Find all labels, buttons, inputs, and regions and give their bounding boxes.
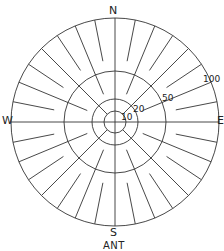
- north-label: N: [109, 5, 117, 16]
- spoke-258.75: [13, 134, 54, 142]
- rose-diagram: [0, 0, 224, 251]
- spoke-101.25: [176, 134, 217, 142]
- ring-label-100: 100: [203, 75, 220, 84]
- spoke-225: [41, 130, 107, 196]
- diagram-caption: ANT: [103, 241, 125, 251]
- spoke-22.5: [126, 26, 154, 94]
- spoke-11.25: [127, 20, 135, 61]
- spoke-123.75: [167, 156, 202, 179]
- spoke-112.5: [143, 133, 211, 161]
- spoke-56.25: [167, 64, 202, 87]
- spoke-281.25: [13, 102, 54, 110]
- spoke-67.5: [143, 82, 211, 110]
- spoke-202.5: [75, 150, 103, 218]
- spoke-326.25: [57, 36, 80, 71]
- radial-spokes: [11, 18, 219, 226]
- spoke-146.25: [149, 174, 172, 209]
- spoke-337.5: [75, 26, 103, 94]
- spoke-157.5: [126, 150, 154, 218]
- spoke-78.75: [176, 102, 217, 110]
- spoke-33.75: [149, 36, 172, 71]
- east-label: E: [217, 115, 224, 126]
- spoke-292.5: [19, 82, 87, 110]
- spoke-236.25: [29, 156, 64, 179]
- spoke-168.75: [127, 183, 135, 224]
- ring-label-50: 50: [162, 94, 173, 103]
- spoke-348.75: [95, 20, 103, 61]
- spoke-213.75: [57, 174, 80, 209]
- west-label: W: [2, 115, 13, 126]
- spoke-303.75: [29, 64, 64, 87]
- spoke-247.5: [19, 133, 87, 161]
- ring-label-20: 20: [133, 105, 144, 114]
- south-label: S: [110, 227, 117, 238]
- spoke-315: [41, 48, 107, 114]
- ring-label-10: 10: [121, 113, 132, 122]
- spoke-135: [123, 130, 189, 196]
- spoke-191.25: [95, 183, 103, 224]
